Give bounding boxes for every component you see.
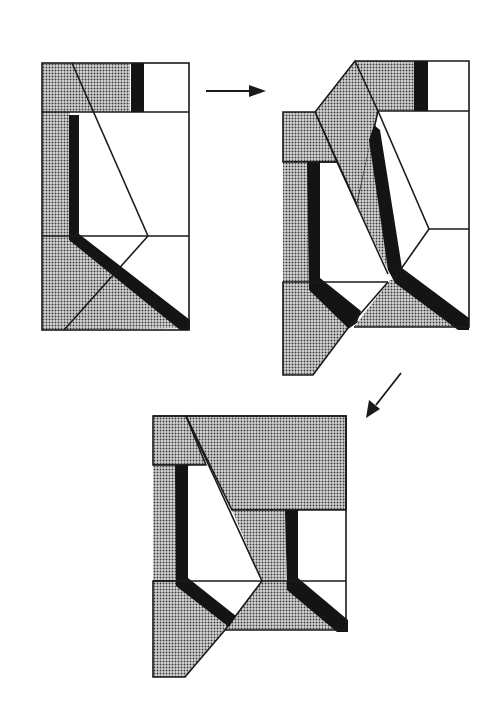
shaded-region [153,465,176,581]
thick-bar [414,61,428,111]
white-region [428,61,469,111]
white-region [147,63,189,112]
white-region [299,510,346,581]
figure-1 [42,63,190,330]
diagram-canvas [0,0,499,715]
figure-2 [283,61,469,375]
arrow-down-left-icon [366,373,401,418]
shaded-region [283,162,310,282]
figure-3 [153,416,348,677]
shaded-region [42,112,70,236]
arrow-right-icon [206,85,266,97]
thick-bar [131,63,144,112]
shaded-region [42,63,130,112]
